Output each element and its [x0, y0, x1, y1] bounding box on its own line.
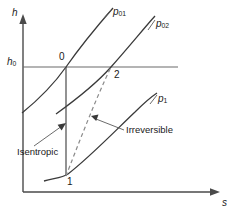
h0-axis-label-subscript: 0 [13, 60, 17, 67]
curve-p1 [44, 93, 157, 181]
irreversible-process-line [66, 67, 111, 176]
annotation-irreversible: Irreversible [126, 125, 173, 135]
irreversible-leader-arrow [91, 115, 99, 122]
curve-p02 [56, 16, 155, 114]
entropy-axis-arrow [210, 188, 220, 195]
enthalpy-axis-label: h [12, 8, 18, 18]
curve-label-p1: p1 [158, 94, 167, 105]
p1-leader-line [150, 95, 157, 104]
diagram-canvas [0, 0, 234, 212]
curve-p01 [22, 8, 113, 113]
curve-label-p1-subscript: 1 [164, 97, 168, 104]
isentropic-leader-arrow [58, 123, 66, 130]
irreversible-leader [91, 115, 124, 131]
annotation-isentropic: Isentropic [17, 147, 58, 157]
enthalpy-axis-arrow [19, 14, 26, 24]
curve-label-p02-subscript: 02 [162, 22, 170, 29]
curve-label-p01-subscript: 01 [119, 10, 127, 17]
entropy-axis [23, 188, 220, 195]
state-point-label-0: 0 [59, 52, 65, 62]
hs-diagram-figure: h s h0 p01 p02 p1 0 1 2 Isentropic Irrev… [0, 0, 234, 212]
isentropic-leader-line [34, 126, 62, 146]
irreversible-leader-line [96, 119, 124, 130]
p02-leader-line [148, 20, 155, 30]
p01-leader-line [104, 10, 111, 18]
curve-label-p01: p01 [113, 7, 126, 18]
state-point-label-2: 2 [114, 70, 120, 80]
curve-label-p02: p02 [156, 19, 169, 30]
isentropic-leader [34, 123, 66, 146]
entropy-axis-label: s [222, 198, 227, 208]
enthalpy-axis [19, 14, 26, 192]
h0-axis-label: h0 [7, 57, 16, 68]
state-point-label-1: 1 [67, 177, 73, 187]
